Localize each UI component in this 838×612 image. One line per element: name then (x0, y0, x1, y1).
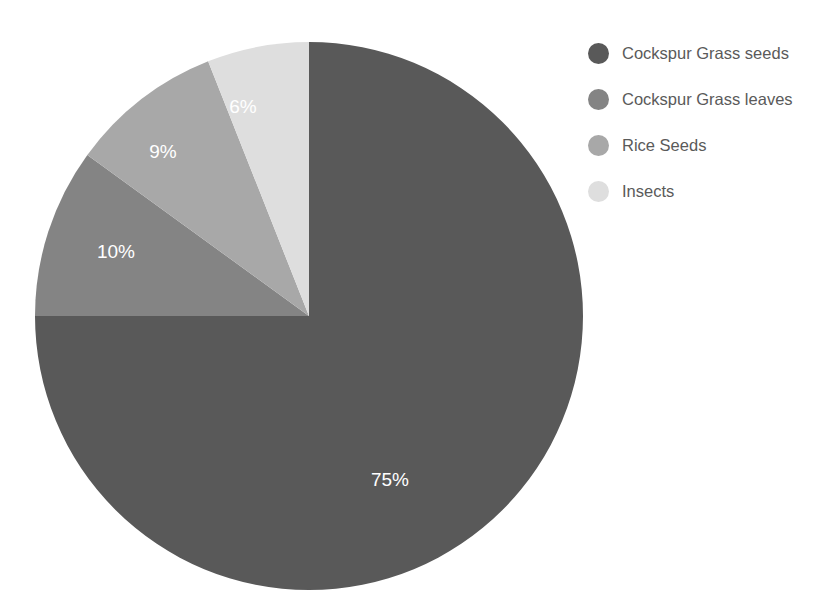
pie-slice-group (35, 42, 583, 590)
legend-item-label: Rice Seeds (622, 136, 706, 155)
legend-color-swatch-icon (588, 43, 609, 64)
pie-slice-value-label: 75% (371, 469, 409, 490)
pie-slice-value-label: 9% (149, 141, 177, 162)
legend-color-swatch-icon (588, 135, 609, 156)
legend-item-label: Cockspur Grass leaves (622, 90, 793, 109)
legend-item[interactable]: Cockspur Grass seeds (588, 30, 836, 76)
chart-legend: Cockspur Grass seedsCockspur Grass leave… (588, 30, 836, 214)
legend-item[interactable]: Insects (588, 168, 836, 214)
pie-slice-value-label: 6% (229, 96, 257, 117)
pie-slice-value-label: 10% (97, 241, 135, 262)
pie-chart-figure: 75%10%9%6% Cockspur Grass seedsCockspur … (0, 0, 838, 612)
legend-item[interactable]: Cockspur Grass leaves (588, 76, 836, 122)
legend-color-swatch-icon (588, 89, 609, 110)
legend-color-swatch-icon (588, 181, 609, 202)
legend-item[interactable]: Rice Seeds (588, 122, 836, 168)
legend-item-label: Cockspur Grass seeds (622, 44, 789, 63)
legend-item-label: Insects (622, 182, 674, 201)
